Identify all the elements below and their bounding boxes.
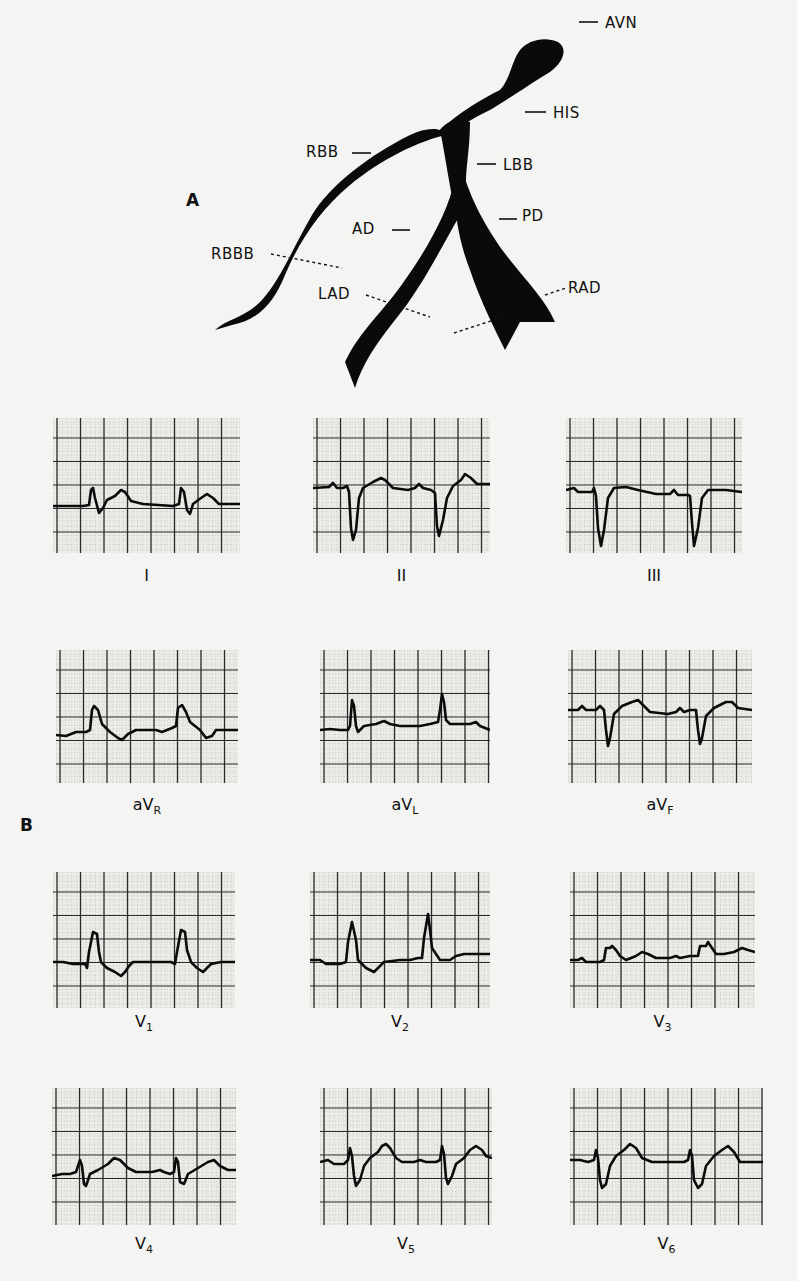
tree-label-lad: LAD bbox=[318, 285, 350, 303]
ecg-strip-v2 bbox=[310, 872, 490, 1008]
lead-label-i: I bbox=[87, 566, 207, 585]
lead-subscript: 3 bbox=[664, 1021, 671, 1034]
ecg-grid bbox=[570, 872, 755, 1008]
tree-label-rad: RAD bbox=[568, 279, 601, 297]
tree-label-lbb: LBB bbox=[503, 156, 533, 174]
lead-label-ii: II bbox=[342, 566, 462, 585]
lead-subscript: 2 bbox=[402, 1021, 409, 1034]
ecg-grid bbox=[313, 418, 490, 553]
lead-label-avr: aVR bbox=[87, 795, 207, 817]
ecg-trace bbox=[570, 1144, 763, 1188]
conduction-system-diagram bbox=[0, 0, 797, 400]
ecg-grid bbox=[53, 872, 235, 1008]
ecg-strip-v4 bbox=[52, 1088, 236, 1225]
lead-name: II bbox=[397, 566, 406, 585]
ecg-grid bbox=[310, 872, 490, 1008]
ecg-strip-avl bbox=[320, 650, 490, 783]
lead-name: V bbox=[658, 1234, 669, 1253]
lead-name: V bbox=[135, 1012, 146, 1031]
lead-name: V bbox=[135, 1234, 146, 1253]
tree-label-his: HIS bbox=[553, 104, 580, 122]
lead-label-avl: aVL bbox=[345, 795, 465, 817]
tree-label-rbbb: RBBB bbox=[211, 245, 254, 263]
ecg-strip-v6 bbox=[570, 1088, 763, 1225]
ecg-grid bbox=[570, 1088, 763, 1225]
lead-subscript: 5 bbox=[408, 1243, 415, 1256]
tree-label-pd: PD bbox=[522, 207, 544, 225]
ecg-grid bbox=[320, 1088, 492, 1225]
ecg-grid bbox=[56, 650, 238, 783]
lead-label-v3: V3 bbox=[603, 1012, 723, 1034]
lead-subscript: 4 bbox=[146, 1243, 153, 1256]
ecg-strip-avr bbox=[56, 650, 238, 783]
ecg-grid bbox=[566, 418, 742, 553]
lead-name: aV bbox=[646, 795, 667, 814]
lead-name: III bbox=[647, 566, 661, 585]
ecg-strip-v5 bbox=[320, 1088, 492, 1225]
lead-name: V bbox=[397, 1234, 408, 1253]
lead-subscript: 6 bbox=[668, 1243, 675, 1256]
lead-label-v6: V6 bbox=[607, 1234, 727, 1256]
panel-b-label: B bbox=[20, 815, 33, 835]
lead-name: I bbox=[144, 566, 149, 585]
ecg-strip-iii bbox=[566, 418, 742, 553]
lead-label-iii: III bbox=[594, 566, 714, 585]
lead-name: V bbox=[654, 1012, 665, 1031]
ecg-grid bbox=[53, 418, 240, 553]
lead-label-avf: aVF bbox=[600, 795, 720, 817]
ecg-grid bbox=[568, 650, 752, 783]
lead-name: aV bbox=[392, 795, 413, 814]
ecg-strip-i bbox=[53, 418, 240, 553]
ecg-trace bbox=[320, 1144, 492, 1186]
lead-label-v4: V4 bbox=[84, 1234, 204, 1256]
lead-subscript: 1 bbox=[146, 1021, 153, 1034]
ecg-grid bbox=[52, 1088, 236, 1225]
lead-name: V bbox=[391, 1012, 402, 1031]
lead-label-v1: V1 bbox=[84, 1012, 204, 1034]
ecg-grid bbox=[320, 650, 490, 783]
tree-label-ad: AD bbox=[352, 220, 375, 238]
ecg-strip-v3 bbox=[570, 872, 755, 1008]
lead-subscript: F bbox=[667, 804, 673, 817]
ecg-strip-avf bbox=[568, 650, 752, 783]
ecg-strip-v1 bbox=[53, 872, 235, 1008]
ecg-strip-ii bbox=[313, 418, 490, 553]
lead-name: aV bbox=[133, 795, 154, 814]
lead-subscript: R bbox=[154, 804, 162, 817]
tree-label-rbb: RBB bbox=[306, 143, 339, 161]
lead-label-v2: V2 bbox=[340, 1012, 460, 1034]
lead-label-v5: V5 bbox=[346, 1234, 466, 1256]
tree-label-avn: AVN bbox=[605, 14, 637, 32]
lead-subscript: L bbox=[412, 804, 418, 817]
